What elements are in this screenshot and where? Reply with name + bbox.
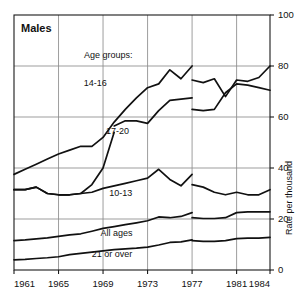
x-tick-label: 1977 [182,278,203,289]
series-label-21-or-over: 21 or over [92,249,133,259]
plot-frame [14,15,270,270]
y-axis-label: Rate per thousand [284,161,294,235]
x-tick-label: 1961 [14,278,35,289]
y-tick-label: 80 [278,60,289,71]
chart-figure: 020406080100 196119651969197319771981198… [0,0,306,307]
x-tick-label: 1969 [92,278,113,289]
y-tick-label: 100 [278,9,294,20]
series-line-14-16 [192,66,270,97]
series-label-17-20: 17-20 [106,126,129,136]
series-line-all-ages [192,212,270,219]
series-line-10-13 [192,185,270,195]
series-label-10-13: 10-13 [109,188,132,198]
chart-title: Males [21,22,52,34]
y-tick-label: 0 [278,264,283,275]
y-axis-ticks [270,15,274,270]
legend-heading: Age groups: [84,50,133,60]
series-line-17-20 [192,84,270,111]
series-label-all-ages: All ages [100,228,133,238]
data-series-group [14,66,270,260]
x-tick-label: 1965 [48,278,69,289]
line-chart-males: 020406080100 196119651969197319771981198… [0,0,306,307]
series-line-17-20 [114,98,192,126]
x-tick-label: 1981 [226,278,247,289]
series-label-14-16: 14-16 [84,78,107,88]
x-tick-label: 1973 [137,278,158,289]
x-axis-ticks [14,270,270,274]
x-axis-tick-labels: 1961196519691973197719811984 [14,278,270,289]
x-tick-label: 1984 [249,278,270,289]
series-line-17-20 [14,132,114,194]
y-tick-label: 60 [278,111,289,122]
series-line-21-or-over [192,237,270,241]
